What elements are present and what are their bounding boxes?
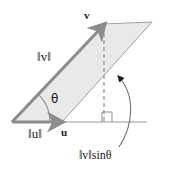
theta-angle-label: θ bbox=[51, 93, 58, 105]
height-leader-curved-arrow bbox=[119, 77, 131, 147]
vector-v-head-label: v bbox=[84, 10, 90, 21]
norm-u-label: ‖u‖ bbox=[28, 127, 42, 140]
height-expression-label: ‖v‖sinθ bbox=[79, 149, 112, 161]
norm-v-label: ‖v‖ bbox=[37, 50, 51, 63]
vector-u-head-label: u bbox=[61, 127, 67, 138]
